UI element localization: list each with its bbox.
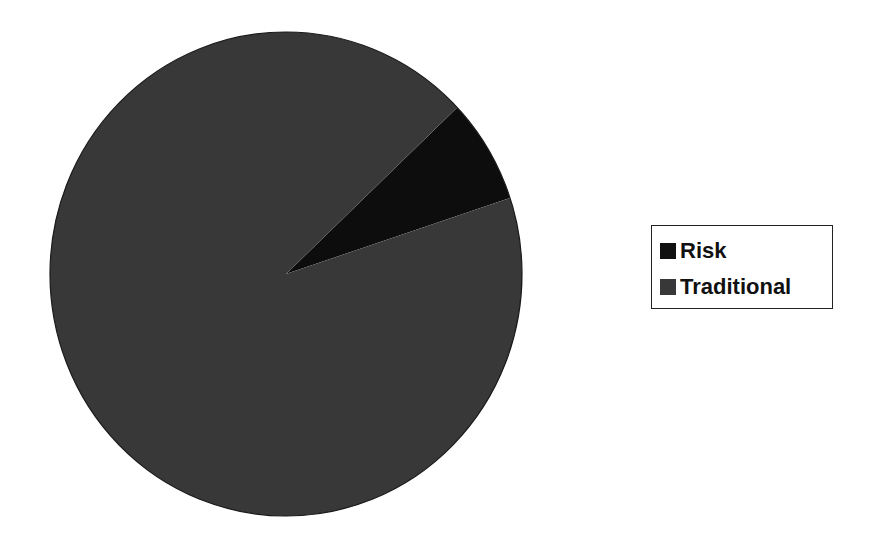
legend-swatch-traditional-icon <box>660 279 676 295</box>
legend-item-traditional: Traditional <box>660 270 832 304</box>
pie-slice-traditional <box>50 32 522 516</box>
legend-label-risk: Risk <box>680 238 726 264</box>
legend-swatch-risk-icon <box>660 243 676 259</box>
chart-legend: Risk Traditional <box>651 225 833 309</box>
legend-item-risk: Risk <box>660 234 832 268</box>
legend-label-traditional: Traditional <box>680 274 791 300</box>
pie-slices <box>50 32 522 516</box>
